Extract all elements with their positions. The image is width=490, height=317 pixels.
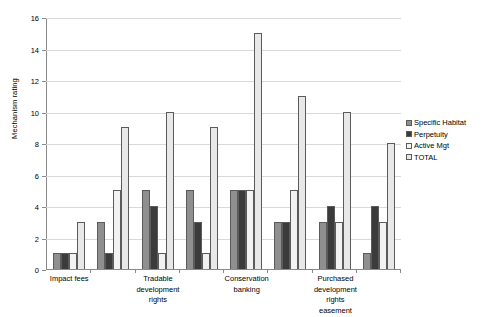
bar[interactable] xyxy=(371,206,379,269)
y-axis-tick xyxy=(42,207,46,208)
category-label-line: rights easement xyxy=(313,295,357,316)
y-axis-tick xyxy=(42,176,46,177)
legend-swatch-icon xyxy=(406,143,412,149)
bar[interactable] xyxy=(343,112,351,270)
category-label-line: banking xyxy=(225,285,269,296)
bar-group xyxy=(47,18,91,269)
bar-group xyxy=(180,18,224,269)
bar-chart: Mechanism rating 0246810121416 Impact fe… xyxy=(0,0,490,317)
bar[interactable] xyxy=(69,253,77,269)
y-axis-tick-label: 14 xyxy=(31,45,39,54)
bar[interactable] xyxy=(194,222,202,269)
bar[interactable] xyxy=(186,190,194,269)
category-label-line: Tradable xyxy=(136,274,180,285)
y-axis-tick-label: 4 xyxy=(35,203,39,212)
bar-group xyxy=(313,18,357,269)
legend-swatch-icon xyxy=(406,120,412,126)
bar[interactable] xyxy=(210,127,218,269)
y-axis-tick xyxy=(42,18,46,19)
legend-swatch-icon xyxy=(406,131,412,137)
legend-label: Active Mgt xyxy=(414,141,449,150)
y-axis-tick-label: 16 xyxy=(31,14,39,23)
bar-group xyxy=(136,18,180,269)
x-axis-category-label xyxy=(180,274,224,316)
y-axis-tick-label: 10 xyxy=(31,108,39,117)
bar-group xyxy=(91,18,135,269)
x-axis-category-label: Purchaseddevelopmentrights easement xyxy=(313,274,357,316)
y-axis-tick xyxy=(42,81,46,82)
plot-area: 0246810121416 xyxy=(46,18,401,270)
bar-groups xyxy=(47,18,401,269)
bar[interactable] xyxy=(290,190,298,269)
bar[interactable] xyxy=(166,112,174,270)
y-axis-tick-label: 12 xyxy=(31,77,39,86)
y-axis-tick xyxy=(42,50,46,51)
bar[interactable] xyxy=(319,222,327,269)
bar[interactable] xyxy=(327,206,335,269)
y-axis-tick-label: 8 xyxy=(35,140,39,149)
y-axis-title: Mechanism rating xyxy=(10,49,19,169)
category-label-line: rights xyxy=(136,295,180,306)
bar[interactable] xyxy=(61,253,69,269)
legend-item[interactable]: Active Mgt xyxy=(406,141,466,150)
x-axis-category-label: Tradabledevelopmentrights xyxy=(136,274,180,316)
y-axis-tick-label: 0 xyxy=(35,266,39,275)
bar[interactable] xyxy=(97,222,105,269)
category-label-line: development xyxy=(313,285,357,296)
bar[interactable] xyxy=(158,253,166,269)
category-label-line: Impact fees xyxy=(47,274,91,285)
x-axis-category-label: Conservationbanking xyxy=(225,274,269,316)
bar-group xyxy=(357,18,401,269)
bar[interactable] xyxy=(230,190,238,269)
y-axis-tick xyxy=(42,239,46,240)
bar[interactable] xyxy=(387,143,395,269)
y-axis-tick-label: 2 xyxy=(35,234,39,243)
legend-label: Specific Habitat xyxy=(414,118,466,127)
legend-item[interactable]: Specific Habitat xyxy=(406,118,466,127)
bar[interactable] xyxy=(121,127,129,269)
bar[interactable] xyxy=(202,253,210,269)
bar[interactable] xyxy=(274,222,282,269)
x-axis-category-label: Impact fees xyxy=(47,274,91,316)
bar-group xyxy=(268,18,312,269)
x-axis-category-label xyxy=(269,274,313,316)
bar[interactable] xyxy=(379,222,387,269)
chart-legend: Specific HabitatPerpetuityActive MgtTOTA… xyxy=(406,118,466,162)
bar[interactable] xyxy=(363,253,371,269)
legend-swatch-icon xyxy=(406,154,412,160)
bar[interactable] xyxy=(150,206,158,269)
bar[interactable] xyxy=(254,33,262,269)
legend-item[interactable]: TOTAL xyxy=(406,153,466,162)
x-axis-category-labels: Impact feesTradabledevelopmentrightsCons… xyxy=(47,274,402,316)
bar[interactable] xyxy=(298,96,306,269)
y-axis-tick xyxy=(42,144,46,145)
bar[interactable] xyxy=(238,190,246,269)
y-axis-tick-label: 6 xyxy=(35,171,39,180)
bar[interactable] xyxy=(282,222,290,269)
category-label-line: Purchased xyxy=(313,274,357,285)
y-axis-tick xyxy=(42,113,46,114)
bar[interactable] xyxy=(335,222,343,269)
x-axis-category-label xyxy=(358,274,402,316)
x-axis-category-label xyxy=(91,274,135,316)
bar[interactable] xyxy=(105,253,113,269)
bar-group xyxy=(224,18,268,269)
legend-item[interactable]: Perpetuity xyxy=(406,130,466,139)
category-label-line: Conservation xyxy=(225,274,269,285)
category-label-line: development xyxy=(136,285,180,296)
bar[interactable] xyxy=(113,190,121,269)
bar[interactable] xyxy=(142,190,150,269)
bar[interactable] xyxy=(77,222,85,269)
legend-label: TOTAL xyxy=(414,153,437,162)
bar[interactable] xyxy=(246,190,254,269)
y-axis-tick xyxy=(42,270,46,271)
bar[interactable] xyxy=(53,253,61,269)
legend-label: Perpetuity xyxy=(414,130,448,139)
